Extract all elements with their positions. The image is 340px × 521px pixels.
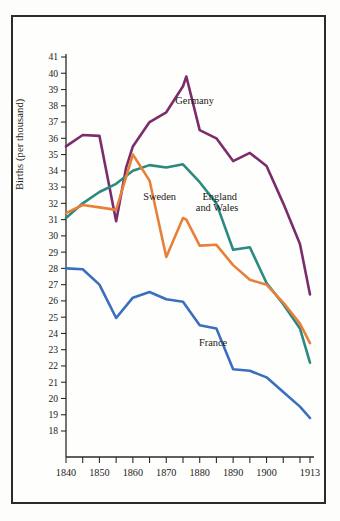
england-label-line2: and Wales — [196, 202, 239, 213]
x-tick-label: 1840 — [56, 467, 76, 478]
y-tick-label: 30 — [48, 230, 58, 241]
france-label: France — [199, 337, 228, 348]
y-axis-ticks: 4140393837363534333231302928272625242322… — [48, 51, 66, 436]
y-tick-label: 28 — [48, 263, 58, 274]
y-tick-label: 40 — [48, 68, 58, 79]
x-tick-label: 1880 — [190, 467, 210, 478]
series-line-germany — [66, 77, 310, 295]
y-tick-label: 35 — [48, 149, 58, 160]
sweden-label: Sweden — [143, 191, 177, 202]
x-axis-ticks: 18401850186018701880189019001913 — [56, 457, 320, 478]
y-tick-label: 36 — [48, 133, 58, 144]
england-label-line1: England — [202, 191, 237, 202]
y-tick-label: 26 — [48, 295, 58, 306]
y-tick-label: 29 — [48, 247, 58, 258]
data-series — [66, 77, 310, 418]
y-tick-label: 27 — [48, 279, 58, 290]
germany-label: Germany — [175, 95, 214, 106]
x-tick-label: 1860 — [123, 467, 143, 478]
x-tick-label: 1870 — [156, 467, 176, 478]
y-tick-label: 21 — [48, 377, 58, 388]
y-tick-label: 19 — [48, 409, 58, 420]
y-tick-label: 39 — [48, 84, 58, 95]
chart-canvas: 4140393837363534333231302928272625242322… — [0, 0, 340, 521]
x-tick-label: 1900 — [256, 467, 276, 478]
y-tick-label: 37 — [48, 116, 58, 127]
figure-root: Births (per thousand) 414039383736353433… — [0, 0, 340, 521]
y-tick-label: 38 — [48, 100, 58, 111]
y-tick-label: 20 — [48, 393, 58, 404]
x-tick-label: 1850 — [89, 467, 109, 478]
x-tick-label: 1890 — [223, 467, 243, 478]
y-tick-label: 41 — [48, 51, 58, 62]
y-tick-label: 32 — [48, 198, 58, 209]
y-tick-label: 24 — [48, 328, 58, 339]
y-tick-label: 23 — [48, 344, 58, 355]
y-tick-label: 34 — [48, 165, 58, 176]
y-tick-label: 25 — [48, 312, 58, 323]
y-tick-label: 22 — [48, 360, 58, 371]
x-tick-label: 1913 — [300, 467, 320, 478]
y-tick-label: 18 — [48, 425, 58, 436]
y-tick-label: 33 — [48, 181, 58, 192]
series-line-england-and-wales — [66, 164, 310, 362]
y-tick-label: 31 — [48, 214, 58, 225]
